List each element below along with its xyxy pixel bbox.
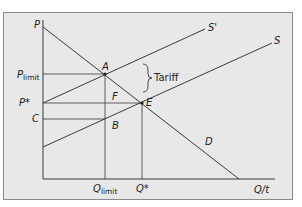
tariff-diagram: P Q/t Plimit P* C Qlimit Q* A E F B D S …	[0, 0, 302, 207]
p-star-label: P*	[19, 97, 30, 108]
tariff-label: Tariff	[153, 72, 179, 83]
supply-tariff-curve	[43, 29, 205, 103]
point-a-marker	[103, 72, 106, 75]
p-limit-label: Plimit	[17, 69, 40, 82]
q-limit-label: Qlimit	[93, 183, 117, 196]
supply-curve	[43, 43, 272, 147]
point-b-label: B	[112, 120, 119, 131]
demand-label: D	[205, 136, 213, 147]
q-star-label: Q*	[136, 183, 149, 194]
point-f-label: F	[112, 91, 118, 102]
tariff-brace	[143, 64, 152, 92]
c-label: C	[32, 113, 39, 124]
supply-tariff-label: S'	[208, 22, 217, 33]
point-e-label: E	[146, 97, 153, 108]
point-e-marker	[140, 101, 143, 104]
supply-label: S	[274, 35, 281, 46]
x-axis-label: Q/t	[254, 184, 270, 195]
y-axis-label: P	[34, 19, 41, 30]
point-a-label: A	[101, 61, 109, 72]
